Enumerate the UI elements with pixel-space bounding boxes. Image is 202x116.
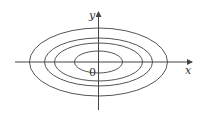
ellipse-contour-diagram: x y 0 (0, 0, 202, 116)
x-axis-label: x (185, 64, 192, 77)
y-axis-label: y (88, 9, 96, 22)
origin-label: 0 (89, 66, 96, 79)
